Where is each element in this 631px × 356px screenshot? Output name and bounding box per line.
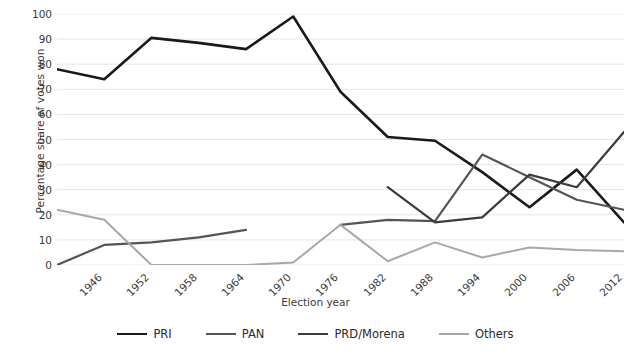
- y-axis-tick-label: 50: [20, 134, 52, 146]
- y-axis-tick-label: 90: [20, 33, 52, 45]
- series-line-others: [57, 210, 624, 265]
- legend-swatch: [206, 333, 236, 335]
- legend-item-others[interactable]: Others: [439, 327, 514, 341]
- legend-label: Others: [475, 327, 514, 341]
- x-axis-tick-label: 1952: [124, 271, 151, 298]
- y-axis-tick-label: 40: [20, 159, 52, 171]
- legend-label: PRD/Morena: [334, 327, 405, 341]
- y-axis-tick-label: 0: [20, 259, 52, 271]
- y-axis-tick-label: 70: [20, 83, 52, 95]
- y-axis-tick-label: 100: [20, 8, 52, 20]
- x-axis-tick-label: 2000: [502, 271, 529, 298]
- legend-label: PAN: [242, 327, 265, 341]
- x-axis-tick-label: 1982: [360, 271, 387, 298]
- x-axis-title: Election year: [0, 296, 631, 308]
- x-axis-tick-label: 1958: [171, 271, 198, 298]
- gridlines: [57, 14, 624, 265]
- x-axis-tick-label: 1976: [313, 271, 340, 298]
- x-axis-tick-label: 1988: [408, 271, 435, 298]
- y-axis-tick-label: 60: [20, 108, 52, 120]
- y-axis-tick-label: 20: [20, 209, 52, 221]
- series-line-pan: [57, 230, 246, 265]
- legend-swatch: [439, 333, 469, 335]
- y-axis-tick-label: 30: [20, 184, 52, 196]
- y-axis-tick-label: 80: [20, 58, 52, 70]
- x-axis-tick-label: 1994: [455, 271, 482, 298]
- legend-swatch: [117, 333, 147, 335]
- legend-item-pan[interactable]: PAN: [206, 327, 265, 341]
- x-axis-tick-label: 2006: [549, 271, 576, 298]
- legend-swatch: [298, 333, 328, 335]
- y-axis-tick-label: 10: [20, 234, 52, 246]
- x-axis-tick-label: 1970: [266, 271, 293, 298]
- x-axis-tick-label: 2012: [597, 271, 624, 298]
- x-axis-tick-label: 1964: [219, 271, 246, 298]
- legend-item-prd-morena[interactable]: PRD/Morena: [298, 327, 405, 341]
- x-axis-tick-label: 1946: [77, 271, 104, 298]
- series-lines: [57, 17, 624, 265]
- chart-legend: PRIPANPRD/MorenaOthers: [0, 327, 631, 341]
- plot-svg: [57, 14, 624, 265]
- series-line-prd-morena: [388, 132, 624, 222]
- line-chart: Percentage share of votes won 0102030405…: [0, 0, 631, 356]
- series-line-pri: [57, 17, 624, 223]
- plot-area: [57, 14, 624, 265]
- legend-label: PRI: [153, 327, 171, 341]
- legend-item-pri[interactable]: PRI: [117, 327, 171, 341]
